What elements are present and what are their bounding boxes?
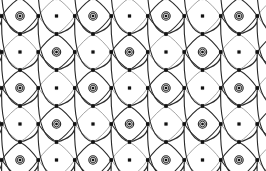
pattern-canvas — [0, 0, 266, 171]
lattice-pattern-svg — [0, 0, 266, 171]
